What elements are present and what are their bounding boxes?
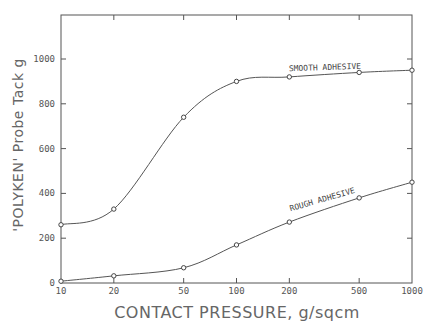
data-point-marker [181, 266, 185, 270]
probe-tack-chart: 102050100200500100002004006008001000 SMO… [0, 0, 437, 325]
series-rough-adhesive: ROUGH ADHESIVE [59, 180, 414, 283]
data-point-marker [234, 79, 238, 83]
y-tick-label: 200 [39, 233, 55, 243]
series-smooth-adhesive: SMOOTH ADHESIVE [59, 62, 414, 227]
data-point-marker [234, 243, 238, 247]
y-tick-label: 1000 [33, 54, 55, 64]
series-label: SMOOTH ADHESIVE [289, 62, 362, 74]
data-point-marker [59, 223, 63, 227]
y-axis-label: 'POLYKEN' Probe Tack g [10, 58, 26, 232]
data-point-marker [410, 180, 414, 184]
data-point-marker [112, 207, 116, 211]
y-tick-label: 800 [39, 99, 55, 109]
x-tick-label: 1000 [401, 286, 423, 296]
x-tick-label: 500 [351, 286, 367, 296]
x-tick-label: 20 [108, 286, 119, 296]
y-tick-label: 0 [50, 278, 55, 288]
x-tick-label: 100 [228, 286, 244, 296]
x-tick-label: 10 [56, 286, 67, 296]
data-point-marker [357, 70, 361, 74]
data-point-marker [357, 196, 361, 200]
series-line [61, 70, 412, 225]
axis-ticks: 102050100200500100002004006008001000 [33, 15, 423, 296]
data-point-marker [287, 75, 291, 79]
data-point-marker [287, 220, 291, 224]
y-tick-label: 400 [39, 188, 55, 198]
series-curves: SMOOTH ADHESIVEROUGH ADHESIVE [59, 62, 414, 284]
x-tick-label: 50 [178, 286, 189, 296]
data-point-marker [112, 274, 116, 278]
data-point-marker [59, 279, 63, 283]
series-label: ROUGH ADHESIVE [289, 186, 356, 213]
data-point-marker [181, 115, 185, 119]
x-tick-label: 200 [281, 286, 297, 296]
data-point-marker [410, 68, 414, 72]
y-tick-label: 600 [39, 144, 55, 154]
x-axis-label: CONTACT PRESSURE, g/sqcm [114, 303, 360, 322]
